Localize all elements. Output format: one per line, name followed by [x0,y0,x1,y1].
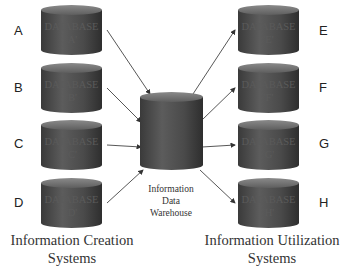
cylinder-top [41,5,102,15]
letter-B: B [14,80,23,95]
cylinder-top [238,120,299,130]
database-label-line1: DATABASE [242,194,296,205]
database-h: DATABASE'H' [238,178,299,228]
database-a: DATABASE'A' [41,5,102,55]
database-label-line2: 'A' [66,34,77,45]
database-f: DATABASE'F' [238,63,299,113]
arrow-d-to-warehouse [107,170,143,203]
arrow-a-to-warehouse [107,30,150,94]
arrow-warehouse-to-h [200,170,235,203]
cylinder-top [238,178,299,188]
warehouse-label: Information Data Warehouse [148,184,194,218]
letter-H: H [319,195,328,210]
warehouse-label-line3: Warehouse [150,208,192,218]
creation-caption-line2: Systems [48,250,97,266]
creation-letters: A B C D [14,23,23,210]
cylinder-body [41,10,102,55]
letter-G: G [319,136,329,151]
cylinder-body [238,10,299,55]
database-label-line2: 'H' [263,207,274,218]
cylinder-top [41,63,102,73]
arrow-warehouse-to-e [193,30,235,94]
data-warehouse-diagram: DATABASE'A'DATABASE'B'DATABASE'C'DATABAS… [0,0,350,279]
cylinder-top [41,178,102,188]
database-b: DATABASE'B' [41,63,102,113]
arrow-warehouse-to-f [202,88,235,120]
letter-C: C [14,136,23,151]
database-e: DATABASE'E' [238,5,299,55]
creation-caption-line1: Information Creation [11,232,135,248]
cylinder-body [41,183,102,228]
warehouse-label-line2: Data [162,196,181,206]
nodes-layer: DATABASE'A'DATABASE'B'DATABASE'C'DATABAS… [41,5,299,228]
arrow-b-to-warehouse [107,88,141,122]
database-c: DATABASE'C' [41,120,102,170]
warehouse-label-line1: Information [148,184,194,194]
cylinder-body [140,97,203,170]
database-label-line1: DATABASE [45,79,99,90]
database-label-line1: DATABASE [45,21,99,32]
database-d: DATABASE'D' [41,178,102,228]
utilization-caption: Information Utilization Systems [205,232,341,266]
cylinder-top [238,5,299,15]
database-label-line2: 'B' [66,92,77,103]
cylinder-body [238,183,299,228]
database-g: DATABASE'G' [238,120,299,170]
letter-E: E [319,23,328,38]
database-label-line2: 'F' [264,92,274,103]
database-label-line2: 'D' [66,207,77,218]
cylinder-body [238,68,299,113]
arrow-c-to-warehouse [107,145,141,147]
cylinder-top [238,63,299,73]
database-label-line1: DATABASE [45,194,99,205]
database-label-line2: 'G' [263,149,274,160]
information-data-warehouse [140,92,203,170]
utilization-caption-line2: Systems [248,250,297,266]
cylinder-body [41,125,102,170]
database-label-line2: 'E' [263,34,273,45]
database-label-line1: DATABASE [45,136,99,147]
utilization-letters: E F G H [319,23,329,210]
database-label-line1: DATABASE [242,21,296,32]
cylinder-body [41,68,102,113]
creation-caption: Information Creation Systems [11,232,135,266]
cylinder-top [140,92,203,102]
cylinder-top [41,120,102,130]
letter-D: D [14,195,23,210]
database-label-line1: DATABASE [242,79,296,90]
database-label-line1: DATABASE [242,136,296,147]
database-label-line2: 'C' [66,149,77,160]
letter-A: A [14,23,23,38]
cylinder-body [238,125,299,170]
utilization-caption-line1: Information Utilization [205,232,341,248]
arrow-warehouse-to-g [202,145,235,147]
letter-F: F [319,80,327,95]
